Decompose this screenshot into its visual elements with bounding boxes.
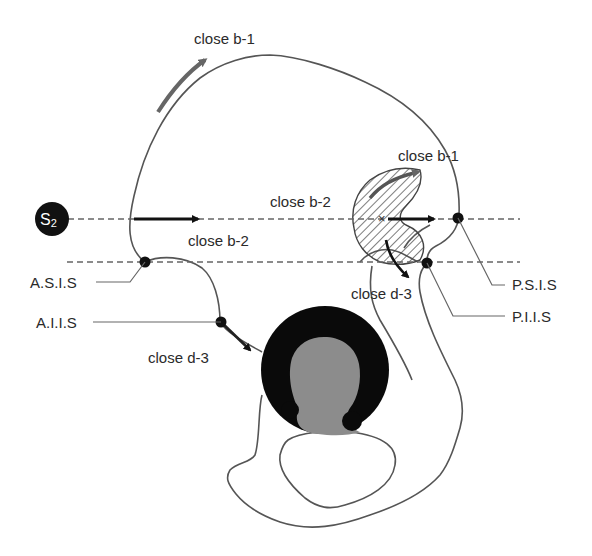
label-psis: P.S.I.S	[512, 276, 557, 293]
label-close-b2-front: close b-2	[188, 232, 249, 249]
obturator-foramen	[280, 431, 396, 507]
s2-marker: S2	[35, 202, 69, 236]
s2-letter: S	[40, 211, 51, 228]
label-piis: P.I.I.S	[512, 308, 551, 325]
label-close-b2-sacroiliac: close b-2	[270, 193, 331, 210]
label-aiis: A.I.I.S	[36, 314, 77, 331]
leader-psis	[458, 218, 505, 285]
label-close-d3-posterior: close d-3	[351, 285, 412, 302]
label-close-d3-anterior: close d-3	[148, 349, 209, 366]
origin-x-mark: ×	[378, 211, 386, 226]
s2-subscript: 2	[51, 217, 57, 229]
leader-piis	[427, 263, 505, 316]
label-close-b1-crest: close b-1	[194, 30, 255, 47]
acetabulum-notch-left	[281, 401, 299, 419]
acetabulum-notch-right	[342, 411, 362, 431]
pelvis-diagram: S2 × close b-1 close b-2 close b-1 close…	[0, 0, 592, 556]
arrow-close-d3-anterior	[221, 322, 250, 350]
anterior-border	[145, 258, 262, 352]
label-asis: A.S.I.S	[30, 274, 77, 291]
label-close-b1-sacroiliac: close b-1	[398, 147, 459, 164]
leader-asis	[96, 262, 145, 282]
arrow-close-b1-crest	[158, 60, 205, 112]
